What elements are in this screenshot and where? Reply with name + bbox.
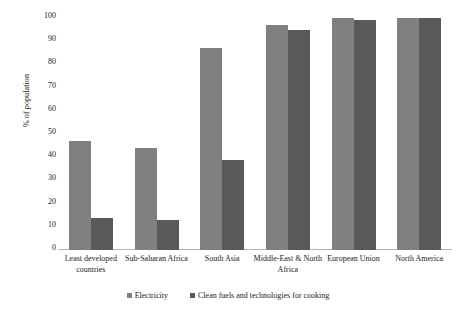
bar-group — [200, 18, 244, 250]
bar — [69, 141, 91, 250]
legend-swatch-icon — [127, 293, 132, 298]
y-axis-tick-50: 50 — [30, 128, 56, 136]
bar — [222, 160, 244, 250]
bar — [354, 20, 376, 250]
y-axis-tick-30: 30 — [30, 174, 56, 182]
legend-item[interactable]: Clean fuels and technologies for cooking — [190, 291, 329, 300]
bar — [200, 48, 222, 250]
x-axis-category-label: European Union — [316, 254, 392, 265]
bar-group — [397, 18, 441, 250]
bar — [419, 18, 441, 250]
legend-label: Clean fuels and technologies for cooking — [198, 291, 329, 300]
y-axis-tick-70: 70 — [30, 82, 56, 90]
y-axis-tick-60: 60 — [30, 105, 56, 113]
x-axis-category-label: North America — [381, 254, 456, 265]
bar — [288, 30, 310, 250]
bar — [266, 25, 288, 250]
y-axis-tick-labels: 1009080706050403020100 — [30, 12, 56, 252]
bar — [157, 220, 179, 250]
bar-group — [332, 18, 376, 250]
bar — [91, 218, 113, 250]
legend-swatch-icon — [190, 293, 195, 298]
x-axis-category-label: South Asia — [184, 254, 260, 265]
y-axis-tick-20: 20 — [30, 198, 56, 206]
bar — [397, 18, 419, 250]
x-axis-category-label: Middle-East & North Africa — [250, 254, 326, 275]
chart-legend: ElectricityClean fuels and technologies … — [0, 291, 456, 300]
bar — [332, 18, 354, 250]
x-axis-category-labels: Least developed countriesSub-Saharan Afr… — [58, 254, 452, 288]
bar-group — [135, 18, 179, 250]
legend-label: Electricity — [135, 291, 168, 300]
x-axis-category-label: Least developed countries — [53, 254, 129, 275]
x-axis-category-label: Sub-Saharan Africa — [119, 254, 195, 265]
y-axis-tick-40: 40 — [30, 151, 56, 159]
legend-item[interactable]: Electricity — [127, 291, 168, 300]
y-axis-tick-10: 10 — [30, 221, 56, 229]
bar-chart: % of population 1009080706050403020100 L… — [0, 0, 456, 317]
bar-group — [69, 18, 113, 250]
plot-area — [58, 18, 452, 250]
bar — [135, 148, 157, 250]
y-axis-tick-0: 0 — [30, 244, 56, 252]
bar-group — [266, 18, 310, 250]
y-axis-tick-90: 90 — [30, 35, 56, 43]
y-axis-tick-80: 80 — [30, 58, 56, 66]
y-axis-tick-100: 100 — [30, 12, 56, 20]
x-axis-line — [58, 249, 452, 250]
